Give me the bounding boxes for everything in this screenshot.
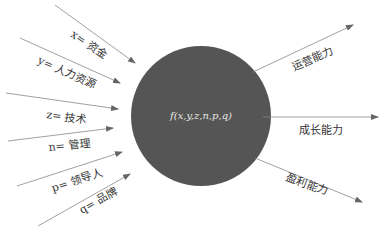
output-label-profit: 盈利能力: [284, 170, 330, 198]
output-label-operation: 运营能力: [290, 43, 336, 74]
input-label-p: p= 领导人: [50, 166, 104, 195]
input-label-q: q= 品牌: [77, 184, 120, 217]
input-label-z: z= 技术: [46, 108, 88, 127]
input-label-n: n= 管理: [48, 136, 91, 154]
function-label: f(x,y,z,n,p,q): [169, 110, 232, 121]
input-label-x: x= 资金: [68, 27, 110, 61]
arrow-z: [6, 93, 118, 109]
output-label-growth: 成长能力: [299, 123, 343, 137]
input-label-y: y= 人力资源: [35, 53, 99, 92]
factor-diagram: x= 资金 y= 人力资源 z= 技术 n= 管理 p= 领导人 q= 品牌 f…: [0, 0, 383, 232]
